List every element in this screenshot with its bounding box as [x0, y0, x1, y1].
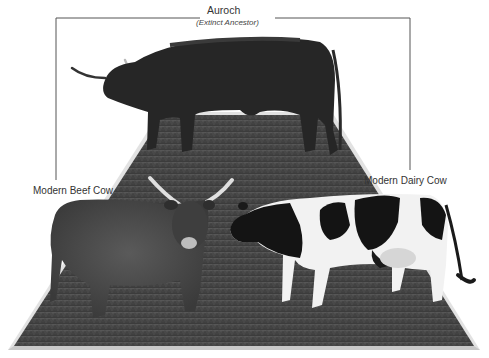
dairy-cow-label: Modern Dairy Cow [364, 176, 447, 186]
beef-cow-label: Modern Beef Cow [33, 186, 113, 196]
ancestor-label: Auroch [207, 5, 240, 16]
ancestor-sublabel: (Extinct Ancestor) [196, 19, 259, 27]
lineage-diagram: Auroch (Extinct Ancestor) Modern Beef Co… [0, 0, 489, 358]
